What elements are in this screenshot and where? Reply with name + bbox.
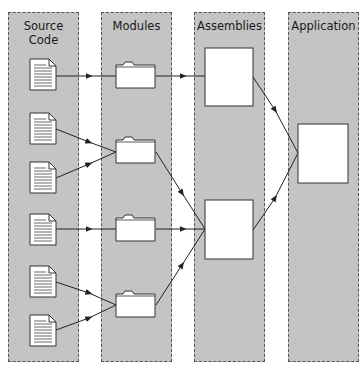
source-file-icon [30, 214, 56, 245]
source-file-icon [30, 113, 56, 144]
module-folder-icon [116, 137, 155, 163]
source-file-icon [30, 266, 56, 297]
source-file-icon [30, 162, 56, 193]
assembly-box [205, 48, 253, 106]
module-folder-icon [116, 291, 155, 317]
assembly-box [205, 200, 253, 259]
source-file-icon [30, 59, 56, 90]
module-folder-icon [116, 62, 155, 88]
module-folder-icon [116, 215, 155, 241]
diagram-canvas [0, 0, 364, 369]
source-file-icon [30, 315, 56, 346]
application-box [298, 124, 348, 183]
edges [56, 76, 298, 330]
